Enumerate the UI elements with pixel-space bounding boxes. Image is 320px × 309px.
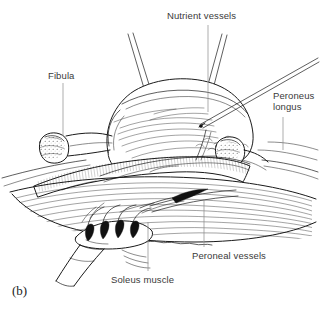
fibula-proximal-cut-end [36, 132, 112, 166]
label-peroneal-vessels: Peroneal vessels [192, 250, 266, 261]
label-fibula: Fibula [48, 70, 74, 81]
figure-container: Nutrient vessels Fibula Peroneus longus … [0, 0, 320, 309]
figure-caption: (b) [12, 283, 27, 299]
label-nutrient-vessels: Nutrient vessels [167, 10, 236, 21]
label-soleus-muscle: Soleus muscle [111, 274, 174, 285]
label-peroneus-longus: Peroneus longus [273, 90, 314, 112]
anatomical-illustration [0, 0, 320, 309]
